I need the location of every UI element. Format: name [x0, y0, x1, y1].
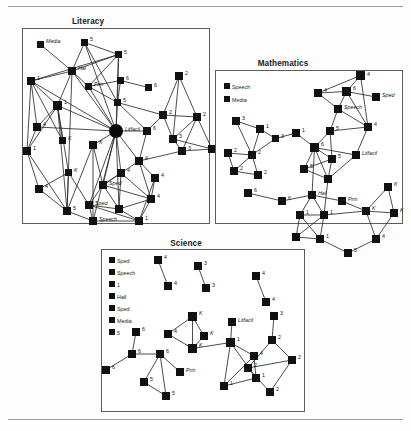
network-node [175, 72, 183, 80]
network-node [384, 183, 392, 191]
edge [85, 43, 119, 55]
network-node [85, 83, 92, 90]
node-label: 4 [164, 254, 167, 260]
node-label: 6 [138, 348, 141, 354]
network-node [266, 388, 274, 396]
legend-swatch [224, 96, 230, 102]
node-label: 4 [43, 121, 46, 127]
network-node [268, 336, 276, 344]
network-node [194, 262, 202, 270]
network-node [292, 129, 300, 137]
network-node [254, 171, 262, 179]
network-node [169, 135, 177, 143]
network-node [115, 205, 123, 213]
node-label: 2 [169, 109, 172, 115]
node-label: Prin [348, 196, 357, 202]
legend-swatch [109, 305, 115, 311]
node-label: 3 [280, 310, 283, 316]
network-node [256, 125, 264, 133]
edge [312, 148, 315, 196]
edge [58, 106, 117, 132]
node-label: 6 [321, 141, 324, 147]
network-node [316, 235, 324, 243]
node-label: Speech [344, 104, 362, 110]
network-node [117, 169, 125, 177]
network-node [156, 350, 164, 358]
node-label: K [210, 330, 214, 336]
node-label: 4 [127, 167, 130, 173]
node-label: 4 [262, 270, 265, 276]
network-node [344, 249, 352, 257]
network-node [326, 127, 334, 135]
node-label: 3 [204, 260, 207, 266]
network-node [68, 67, 76, 75]
network-node [115, 51, 122, 58]
edge [31, 81, 37, 127]
network-node [314, 89, 322, 97]
node-label: 4 [260, 350, 263, 356]
network-node [178, 147, 186, 155]
node-label: Litfacil [125, 126, 140, 132]
network-node [278, 197, 286, 205]
node-label: Sped [95, 200, 107, 206]
network-node [244, 189, 252, 197]
edge [72, 71, 116, 131]
network-node [288, 356, 296, 364]
node-label: K [99, 139, 103, 145]
legend-swatch [109, 281, 115, 287]
network-node [320, 211, 328, 219]
network-node [59, 137, 66, 144]
node-label: 4 [174, 280, 177, 286]
network-node [147, 195, 155, 203]
network-node [228, 318, 236, 326]
network-node [37, 41, 44, 48]
node-label: 5 [73, 205, 76, 211]
node-label: 2 [185, 70, 188, 76]
legend-label: 1 [117, 282, 120, 288]
top-divider-rule [8, 6, 403, 7]
node-label: 4 [324, 87, 327, 93]
node-label: 5 [90, 36, 93, 42]
network-node [202, 284, 210, 292]
node-label: 1 [237, 336, 240, 342]
network-node [53, 101, 62, 110]
node-label: 2 [234, 147, 237, 153]
network-node [296, 211, 304, 219]
node-label: K [74, 167, 78, 173]
node-label: 5 [354, 247, 357, 253]
network-node [162, 392, 170, 400]
legend-swatch [109, 317, 115, 323]
node-label: Speech [99, 216, 117, 222]
network-node [135, 157, 143, 165]
network-node [176, 368, 184, 376]
network-panel-literacy: Media55Hal1Prin6652223314Litfacil6K1K434… [22, 28, 210, 224]
legend-label: Speech [232, 84, 250, 90]
legend-label: Sped [117, 258, 130, 264]
network-node [188, 312, 197, 321]
network-panel-science: SpedSpeech1HallSpedMedia5443344K4KKLitfa… [101, 249, 305, 412]
network-node [109, 124, 123, 138]
edge [248, 193, 282, 201]
node-label: 5 [310, 163, 313, 169]
node-label: 2 [276, 386, 279, 392]
node-label: 1 [230, 380, 233, 386]
edge [324, 179, 328, 215]
edge [179, 76, 197, 117]
node-label: 2 [258, 149, 261, 155]
edge [103, 185, 151, 199]
network-node [224, 149, 232, 157]
network-node [252, 272, 260, 280]
network-node [65, 169, 72, 176]
node-label: 4 [157, 193, 160, 199]
network-node [342, 87, 351, 96]
network-node [372, 235, 380, 243]
node-label: Prin [94, 81, 103, 87]
network-node [334, 105, 342, 113]
edge [236, 121, 252, 155]
edge [37, 127, 116, 131]
node-label: 6 [154, 82, 157, 88]
bottom-divider-rule [8, 419, 403, 420]
network-node [200, 332, 208, 340]
node-label: 6 [142, 326, 145, 332]
network-node [390, 209, 398, 217]
